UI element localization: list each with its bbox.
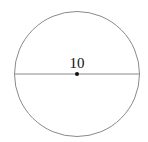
center-point (75, 72, 79, 76)
circle-diagram: 10 (0, 0, 148, 142)
diameter-label: 10 (70, 55, 85, 71)
